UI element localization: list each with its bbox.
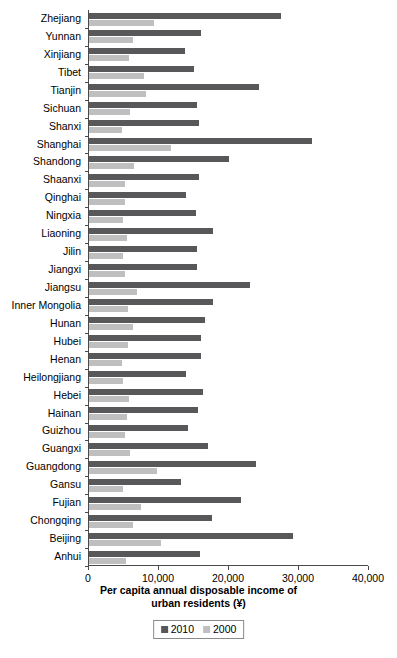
bar-2010	[89, 246, 197, 252]
category-label: Zhejiang	[41, 13, 81, 24]
category-label: Shaanxi	[43, 174, 81, 185]
bar-2010	[89, 30, 201, 36]
bar-2010	[89, 102, 197, 108]
category-tick	[85, 243, 89, 244]
value-tick	[88, 566, 89, 570]
bar-2000	[89, 37, 133, 43]
bar-2010	[89, 533, 293, 539]
value-tick	[228, 566, 229, 570]
bar-2010	[89, 174, 199, 180]
value-tick-label: 10,000	[142, 572, 174, 584]
x-axis-title: Per capita annual disposable income of u…	[0, 584, 397, 610]
category-label: Fujian	[52, 497, 81, 508]
x-axis-title-line2: urban residents (¥)	[0, 597, 397, 610]
bar-2000	[89, 217, 123, 223]
legend-label-2010: 2010	[171, 623, 194, 635]
category-label: Tibet	[58, 67, 81, 78]
bar-2010	[89, 335, 201, 341]
category-label: Liaoning	[41, 228, 81, 239]
category-label: Ningxia	[46, 210, 81, 221]
bar-2000	[89, 540, 161, 546]
category-label: Jiangsu	[45, 282, 81, 293]
category-tick	[85, 153, 89, 154]
bar-2000	[89, 450, 130, 456]
legend-label-2000: 2000	[213, 623, 236, 635]
bar-2000	[89, 127, 122, 133]
category-tick	[85, 225, 89, 226]
bar-2000	[89, 91, 146, 97]
category-tick	[85, 136, 89, 137]
value-tick-label: 0	[85, 572, 91, 584]
bar-2000	[89, 145, 171, 151]
category-label: Hunan	[50, 318, 81, 329]
bar-2000	[89, 163, 134, 169]
bar-2010	[89, 138, 312, 144]
category-tick	[85, 548, 89, 549]
category-label: Hainan	[48, 408, 81, 419]
bar-2010	[89, 228, 213, 234]
bar-2000	[89, 504, 141, 510]
bar-2000	[89, 109, 130, 115]
bar-2000	[89, 468, 157, 474]
category-label: Beijing	[49, 533, 81, 544]
category-tick	[85, 118, 89, 119]
category-label: Shanxi	[49, 121, 81, 132]
category-label: Anhui	[54, 551, 81, 562]
bar-2000	[89, 55, 129, 61]
category-label: Xinjiang	[44, 49, 81, 60]
category-tick	[85, 82, 89, 83]
legend: 2010 2000	[153, 620, 245, 639]
bar-2000	[89, 306, 128, 312]
category-label: Guizhou	[42, 425, 81, 436]
category-label: Chongqing	[30, 515, 81, 526]
bar-2010	[89, 264, 197, 270]
legend-swatch-2000-icon	[203, 626, 210, 633]
bar-2010	[89, 551, 200, 557]
category-tick	[85, 100, 89, 101]
category-label: Shandong	[33, 156, 81, 167]
bar-2010	[89, 515, 212, 521]
category-label: Gansu	[50, 479, 81, 490]
category-tick	[85, 207, 89, 208]
bar-2000	[89, 378, 123, 384]
category-label: Hebei	[54, 390, 81, 401]
bar-2000	[89, 289, 137, 295]
bar-2000	[89, 271, 125, 277]
category-tick	[85, 315, 89, 316]
bar-2000	[89, 73, 144, 79]
category-label: Jiangxi	[48, 264, 81, 275]
category-tick	[85, 189, 89, 190]
value-tick-label: 40,000	[352, 572, 384, 584]
bar-2000	[89, 558, 126, 564]
category-label: Jilin	[63, 246, 81, 257]
bar-2010	[89, 497, 241, 503]
category-tick	[85, 297, 89, 298]
category-tick	[85, 476, 89, 477]
bar-2010	[89, 407, 198, 413]
category-tick	[85, 512, 89, 513]
category-tick	[85, 369, 89, 370]
category-tick	[85, 333, 89, 334]
value-tick-label: 30,000	[282, 572, 314, 584]
legend-swatch-2010-icon	[161, 626, 168, 633]
bar-2010	[89, 282, 250, 288]
bar-2010	[89, 353, 201, 359]
plot-area	[88, 10, 368, 566]
category-label: Hubei	[54, 336, 81, 347]
bar-2000	[89, 360, 122, 366]
category-tick	[85, 458, 89, 459]
category-label: Tianjin	[50, 85, 81, 96]
value-tick	[298, 566, 299, 570]
category-tick	[85, 351, 89, 352]
category-label: Inner Mongolia	[12, 300, 81, 311]
category-tick	[85, 423, 89, 424]
category-tick	[85, 494, 89, 495]
value-tick	[368, 566, 369, 570]
bar-2000	[89, 396, 129, 402]
category-tick	[85, 405, 89, 406]
category-tick	[85, 261, 89, 262]
x-axis-title-line1: Per capita annual disposable income of	[0, 584, 397, 597]
bar-2000	[89, 342, 128, 348]
legend-item-2000: 2000	[203, 623, 236, 635]
bar-2000	[89, 20, 154, 26]
